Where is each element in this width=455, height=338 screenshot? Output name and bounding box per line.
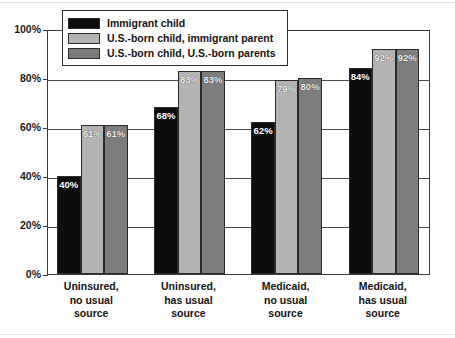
bar-value-label: 83% xyxy=(202,74,224,85)
x-axis-category-line: source xyxy=(138,307,238,321)
legend-swatch-icon xyxy=(68,18,100,29)
x-axis-category-line: Medicaid, xyxy=(333,280,433,294)
legend-label: U.S.-born child, U.S.-born parents xyxy=(107,47,276,59)
bar-1-group-3[interactable]: 62% xyxy=(251,122,275,274)
scan-artifact-top xyxy=(0,2,455,3)
chart-legend: Immigrant childU.S.-born child, immigran… xyxy=(62,10,288,66)
bar-3-group-1[interactable]: 61% xyxy=(104,125,128,274)
y-axis-tick-mark xyxy=(43,275,48,276)
legend-label: U.S.-born child, immigrant parent xyxy=(107,32,273,44)
bar-1-group-2[interactable]: 68% xyxy=(154,107,178,274)
bar-group: 40%61%61% xyxy=(57,31,128,274)
y-axis-tick-label: 40% xyxy=(0,170,41,182)
x-axis-category-line: source xyxy=(236,307,336,321)
bar-value-label: 62% xyxy=(252,125,274,136)
bar-value-label: 61% xyxy=(105,128,127,139)
bar-value-label: 79% xyxy=(276,83,298,94)
legend-swatch-icon xyxy=(68,33,100,44)
y-axis-tick-label: 0% xyxy=(0,268,41,280)
x-axis-category-line: source xyxy=(333,307,433,321)
bar-value-label: 92% xyxy=(373,52,395,63)
legend-label: Immigrant child xyxy=(107,17,185,29)
bar-value-label: 92% xyxy=(397,52,419,63)
x-axis-category-line: Uninsured, xyxy=(138,280,238,294)
x-axis-category-line: Medicaid, xyxy=(236,280,336,294)
y-axis-tick-label: 20% xyxy=(0,219,41,231)
y-axis-tick-label: 100% xyxy=(0,23,41,35)
bar-group: 68%83%83% xyxy=(154,31,225,274)
y-axis-tick-label: 60% xyxy=(0,121,41,133)
bar-value-label: 84% xyxy=(350,71,372,82)
bar-3-group-2[interactable]: 83% xyxy=(201,71,225,274)
x-axis-category-line: has usual xyxy=(138,294,238,308)
x-axis-category-line: Uninsured, xyxy=(41,280,141,294)
bar-value-label: 61% xyxy=(82,128,104,139)
plot-area: 40%61%61%68%83%83%62%79%80%84%92%92% xyxy=(47,30,430,275)
bar-value-label: 80% xyxy=(299,81,321,92)
bar-group: 84%92%92% xyxy=(349,31,420,274)
bar-1-group-1[interactable]: 40% xyxy=(57,176,81,274)
bar-value-label: 40% xyxy=(58,179,80,190)
x-axis-category-label: Medicaid,no usualsource xyxy=(236,280,336,321)
legend-item[interactable]: Immigrant child xyxy=(68,16,281,30)
x-axis-category-label: Uninsured,no usualsource xyxy=(41,280,141,321)
legend-item[interactable]: U.S.-born child, U.S.-born parents xyxy=(68,46,281,60)
legend-swatch-icon xyxy=(68,48,100,59)
y-axis: 0%20%40%60%80%100% xyxy=(0,0,47,338)
bar-value-label: 68% xyxy=(155,110,177,121)
x-axis-category-label: Uninsured,has usualsource xyxy=(138,280,238,321)
bar-3-group-3[interactable]: 80% xyxy=(298,78,322,274)
x-axis-category-label: Medicaid,has usualsource xyxy=(333,280,433,321)
bar-group: 62%79%80% xyxy=(251,31,322,274)
x-axis-category-line: no usual xyxy=(41,294,141,308)
bar-2-group-2[interactable]: 83% xyxy=(178,71,202,274)
bar-3-group-4[interactable]: 92% xyxy=(396,49,420,274)
x-axis-category-line: has usual xyxy=(333,294,433,308)
y-axis-tick-label: 80% xyxy=(0,72,41,84)
bar-2-group-1[interactable]: 61% xyxy=(81,125,105,274)
bar-value-label: 83% xyxy=(179,74,201,85)
bar-2-group-3[interactable]: 79% xyxy=(275,80,299,274)
x-axis-category-line: source xyxy=(41,307,141,321)
bar-2-group-4[interactable]: 92% xyxy=(372,49,396,274)
legend-item[interactable]: U.S.-born child, immigrant parent xyxy=(68,31,281,45)
chart-page: 0%20%40%60%80%100% 40%61%61%68%83%83%62%… xyxy=(0,0,455,338)
bar-1-group-4[interactable]: 84% xyxy=(349,68,373,274)
scan-artifact-bottom xyxy=(0,334,455,335)
x-axis-category-line: no usual xyxy=(236,294,336,308)
